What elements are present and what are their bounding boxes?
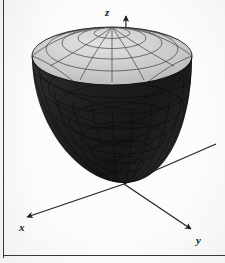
x-axis-line xyxy=(27,184,124,217)
page-rule-bottom xyxy=(3,255,225,256)
z-axis-label: z xyxy=(105,6,109,18)
figure-panel: x y z xyxy=(0,0,225,263)
paraboloid-surface-plot xyxy=(0,0,225,263)
axis-lines-front xyxy=(27,184,191,229)
y-axis-label: y xyxy=(196,234,201,246)
x-axis-label: x xyxy=(19,221,25,233)
page-rule-left xyxy=(3,0,4,258)
y-axis-line xyxy=(124,184,191,229)
